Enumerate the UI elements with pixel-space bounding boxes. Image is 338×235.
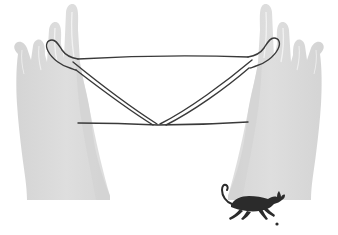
illustration-root: Cat's Cradle String Figure Between Two H… xyxy=(0,0,338,235)
cat-speck-dot xyxy=(275,222,278,225)
cats-cradle-illustration: Cat's Cradle String Figure Between Two H… xyxy=(0,0,338,235)
